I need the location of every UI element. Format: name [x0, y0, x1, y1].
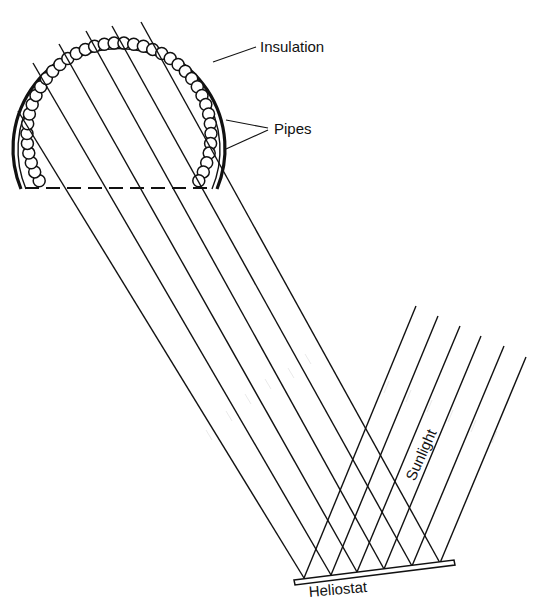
pipe-circle: [193, 175, 205, 187]
leader-lines: [213, 47, 268, 149]
pipes-label: Pipes: [274, 120, 312, 137]
solar-receiver-diagram: [0, 0, 541, 614]
reflected-rays: [18, 22, 440, 578]
insulation-label: Insulation: [260, 38, 324, 55]
